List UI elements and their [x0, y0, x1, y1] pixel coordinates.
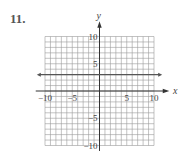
y-tick-label: −10 — [83, 141, 98, 151]
axes: xy — [36, 10, 178, 151]
y-axis-label: y — [96, 10, 102, 21]
y-tick-label: 10 — [89, 32, 99, 42]
x-axis-label: x — [172, 85, 178, 96]
line-arrow-right-icon — [158, 73, 162, 77]
x-tick-label: 5 — [125, 93, 130, 103]
y-tick-label: −5 — [88, 113, 98, 123]
x-axis-arrow-icon — [163, 89, 170, 93]
coordinate-graph: xy −10−5510105−5−10 — [0, 0, 182, 155]
y-tick-label: 5 — [93, 59, 98, 69]
y-axis-arrow-icon — [97, 21, 101, 28]
x-tick-label: −10 — [38, 93, 53, 103]
x-tick-label: −5 — [67, 93, 77, 103]
line-arrow-left-icon — [37, 73, 41, 77]
x-tick-label: 10 — [150, 93, 160, 103]
